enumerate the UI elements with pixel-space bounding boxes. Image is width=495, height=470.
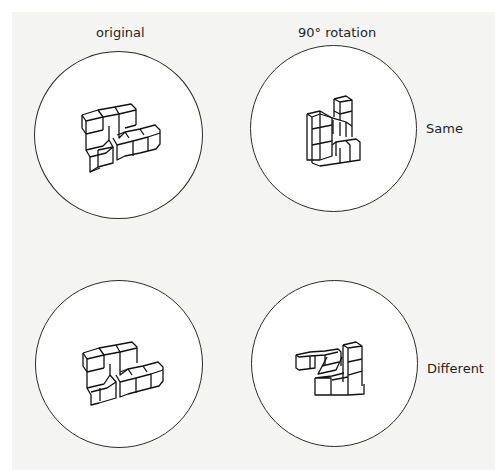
cube-figure-rotated-different xyxy=(0,0,495,470)
result-label-different: Different xyxy=(427,361,484,376)
